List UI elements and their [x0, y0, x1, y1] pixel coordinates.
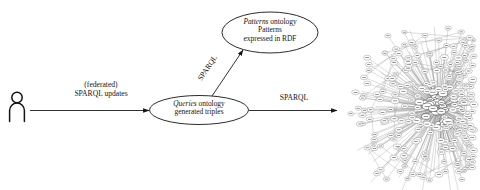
edge-label-federated-sparql-updates: (federated) SPARQL updates	[58, 81, 144, 98]
rdf-graph-vector	[336, 24, 480, 190]
edge-label-sparql-right: SPARQL	[258, 94, 330, 103]
diagram-canvas: (federated) SPARQL updates SPARQL SPARQL…	[0, 0, 480, 190]
patterns-label-line-3: expressed in RDF	[224, 35, 316, 43]
queries-ontology-label: Queries ontology generated triples	[152, 100, 246, 117]
queries-label-line-2: generated triples	[152, 108, 246, 116]
person-icon	[10, 92, 25, 121]
edge-label-line-2: SPARQL updates	[58, 90, 144, 99]
patterns-ontology-label: Patterns ontology Patterns expressed in …	[224, 18, 316, 43]
rdf-graph-visualization	[336, 24, 480, 190]
